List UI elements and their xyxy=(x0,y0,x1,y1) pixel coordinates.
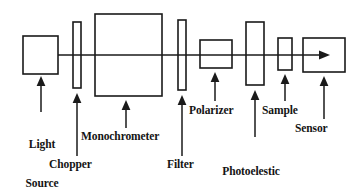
leader-arrowhead-icon xyxy=(281,74,290,84)
leader-light-source xyxy=(37,76,46,112)
optical-setup-diagram: Light Source Chopper Monochrometer Filte… xyxy=(0,0,361,187)
label-light-source-line1: Light xyxy=(20,138,64,151)
leader-arrowhead-icon xyxy=(122,100,131,110)
label-sample: Sample xyxy=(262,104,298,117)
label-photoelestic-modulator: Photoelestic Modulator xyxy=(211,139,291,187)
leader-arrowhead-icon xyxy=(178,95,187,105)
label-chopper: Chopper xyxy=(49,158,92,171)
label-pem-line1: Photoelestic xyxy=(211,165,291,178)
label-monochrometer: Monochrometer xyxy=(81,130,159,143)
component-polarizer[interactable] xyxy=(200,40,232,68)
leader-arrowhead-icon xyxy=(73,93,82,103)
component-sample[interactable] xyxy=(278,38,292,70)
component-light-source[interactable] xyxy=(23,36,58,74)
leader-sensor xyxy=(320,76,329,119)
leader-chopper xyxy=(73,93,82,156)
component-photoelestic-modulator[interactable] xyxy=(246,22,264,85)
leader-arrowhead-icon xyxy=(211,72,220,82)
leader-arrowhead-icon xyxy=(37,76,46,86)
leader-photoelestic-modulator xyxy=(251,90,260,137)
leader-sample xyxy=(281,74,290,101)
label-polarizer: Polarizer xyxy=(189,104,233,117)
label-light-source-line2: Source xyxy=(20,177,64,187)
leader-monochrometer xyxy=(122,100,131,128)
leader-arrowhead-icon xyxy=(320,76,329,86)
leader-arrowhead-icon xyxy=(251,90,260,100)
leader-filter xyxy=(178,95,187,156)
label-light-source: Light Source xyxy=(20,112,64,187)
leader-polarizer xyxy=(211,72,220,101)
label-filter: Filter xyxy=(167,158,194,171)
label-sensor: Sensor xyxy=(295,122,328,135)
